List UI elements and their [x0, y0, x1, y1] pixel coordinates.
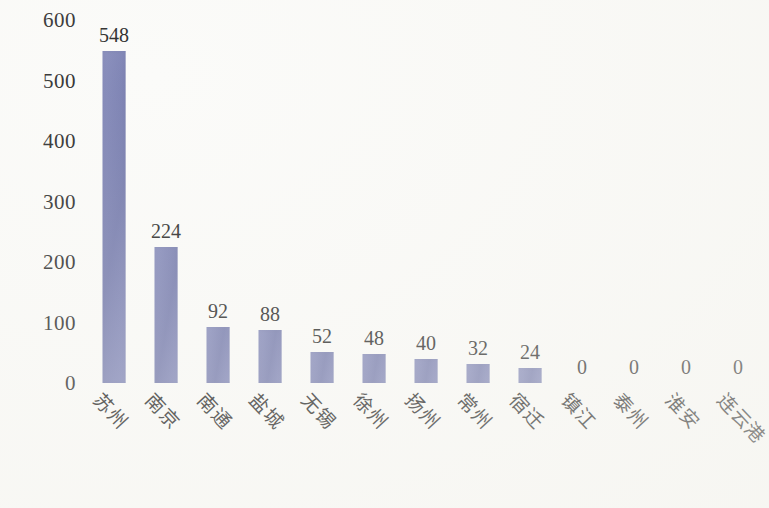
bar-value-label: 52 [312, 326, 332, 346]
x-axis-category-label: 南京 [140, 386, 187, 434]
x-axis-category-label: 淮安 [660, 386, 707, 434]
y-axis-tick-label: 300 [18, 191, 76, 212]
bar-group: 48 [348, 20, 400, 383]
y-axis-tick-label: 200 [18, 252, 76, 273]
bar-value-label: 24 [520, 342, 540, 362]
bar-value-label: 32 [468, 338, 488, 358]
bar-value-label: 0 [733, 357, 743, 377]
x-axis-category-label: 无锡 [296, 386, 343, 434]
bar-group: 24 [504, 20, 556, 383]
x-axis-category-label: 泰州 [608, 386, 655, 434]
y-axis-tick-label: 0 [18, 373, 76, 394]
y-axis-tick-labels: 0100200300400500600 [18, 0, 76, 508]
x-axis-category-label: 常州 [452, 386, 499, 434]
bar-value-label: 48 [364, 328, 384, 348]
bar-group: 52 [296, 20, 348, 383]
bar-group: 0 [660, 20, 712, 383]
bar-group: 88 [244, 20, 296, 383]
x-axis-category-label: 盐城 [244, 386, 291, 434]
bar-group: 40 [400, 20, 452, 383]
y-axis-tick-label: 400 [18, 131, 76, 152]
y-axis-tick-label: 500 [18, 70, 76, 91]
x-axis-category-label: 宿迁 [504, 386, 551, 434]
x-axis-category-label: 连云港 [712, 386, 769, 448]
y-axis-tick-label: 100 [18, 312, 76, 333]
bar [155, 247, 178, 383]
bar [207, 327, 230, 383]
bar-value-label: 548 [99, 25, 129, 45]
bar [103, 51, 126, 383]
bar-value-label: 0 [577, 357, 587, 377]
bar-group: 224 [140, 20, 192, 383]
bar-value-label: 40 [416, 333, 436, 353]
bar-group: 0 [608, 20, 660, 383]
bar [311, 352, 334, 383]
bar [363, 354, 386, 383]
bar-value-label: 224 [151, 221, 181, 241]
bar-value-label: 88 [260, 304, 280, 324]
x-axis-category-labels: 苏州南京南通盐城无锡徐州扬州常州宿迁镇江泰州淮安连云港 [88, 380, 763, 508]
x-axis-category-label: 镇江 [556, 386, 603, 434]
bar-group: 0 [712, 20, 764, 383]
bar-group: 92 [192, 20, 244, 383]
x-axis-category-label: 南通 [192, 386, 239, 434]
plot-area: 548224928852484032240000 [88, 20, 763, 383]
y-axis-tick-label: 600 [18, 10, 76, 31]
bar-chart: 0100200300400500600 54822492885248403224… [0, 0, 769, 508]
bar [259, 330, 282, 383]
x-axis-category-label: 苏州 [88, 386, 135, 434]
bar-group: 548 [88, 20, 140, 383]
x-axis-category-label: 徐州 [348, 386, 395, 434]
x-axis-category-label: 扬州 [400, 386, 447, 434]
bar-group: 0 [556, 20, 608, 383]
bar-value-label: 0 [681, 357, 691, 377]
bar-group: 32 [452, 20, 504, 383]
bar-value-label: 92 [208, 301, 228, 321]
bar-value-label: 0 [629, 357, 639, 377]
